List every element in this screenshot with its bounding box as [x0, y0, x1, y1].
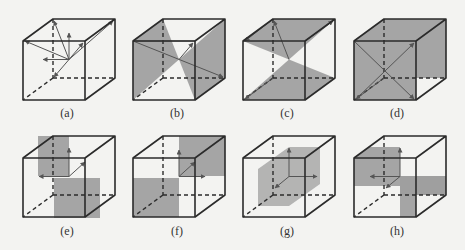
- panel-label-b: (b): [170, 106, 184, 120]
- panel-d: [354, 19, 446, 100]
- panel-f: [133, 136, 225, 217]
- panel-label-a: (a): [60, 106, 73, 120]
- panel-label-g: (g): [280, 224, 294, 238]
- panel-label-d: (d): [390, 106, 404, 120]
- panel-label-c: (c): [280, 106, 293, 120]
- panel-c: [243, 19, 335, 100]
- panel-label-h: (h): [390, 224, 404, 238]
- panel-a: [23, 19, 115, 100]
- cube-symmetry-figure: (a) (b): [0, 0, 465, 250]
- panel-label-e: (e): [60, 224, 73, 238]
- panel-b: [133, 19, 225, 100]
- panel-label-f: (f): [171, 224, 183, 238]
- panel-h: [354, 136, 446, 217]
- panel-g: [243, 136, 335, 217]
- panel-e: [23, 136, 115, 218]
